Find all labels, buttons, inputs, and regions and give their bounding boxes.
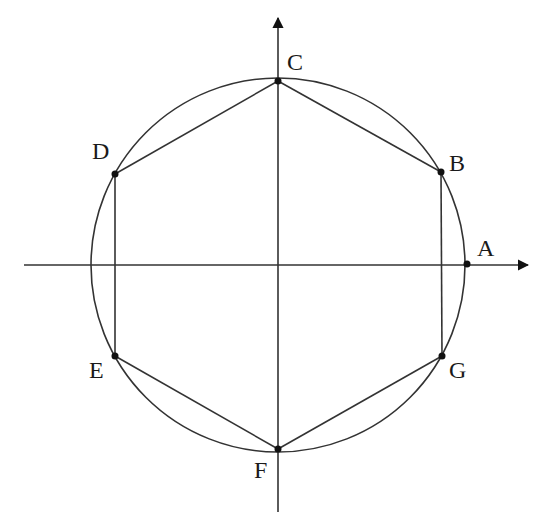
circle-hexagon-diagram: ABCDEFG [0, 0, 536, 514]
point-labels: ABCDEFG [89, 49, 495, 483]
segment-FE [115, 356, 278, 449]
point-E [112, 353, 119, 360]
point-D [112, 171, 119, 178]
segment-CB [278, 81, 441, 172]
point-C [275, 78, 282, 85]
label-G: G [449, 357, 466, 383]
label-D: D [92, 138, 109, 164]
label-F: F [254, 457, 267, 483]
segment-GF [278, 356, 442, 449]
label-E: E [89, 357, 104, 383]
point-G [439, 353, 446, 360]
label-B: B [449, 150, 465, 176]
label-C: C [287, 49, 303, 75]
point-A [464, 261, 471, 268]
point-B [438, 169, 445, 176]
label-A: A [477, 235, 495, 261]
segment-BG [441, 172, 442, 356]
point-F [275, 446, 282, 453]
segment-DC [115, 81, 278, 174]
